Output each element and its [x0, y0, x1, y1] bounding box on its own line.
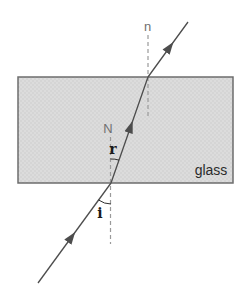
- label-angle-refraction: r: [109, 141, 117, 157]
- label-angle-incidence: i: [97, 205, 102, 221]
- refraction-diagram: n N r i glass: [0, 0, 250, 293]
- label-medium-glass: glass: [195, 162, 228, 178]
- incident-ray: [38, 183, 111, 283]
- angle-arc-incidence: [99, 200, 111, 204]
- label-inner-normal: N: [103, 121, 112, 136]
- label-outer-normal: n: [144, 19, 151, 34]
- emergent-ray: [148, 22, 188, 77]
- diagram-canvas: n N r i glass: [0, 0, 250, 293]
